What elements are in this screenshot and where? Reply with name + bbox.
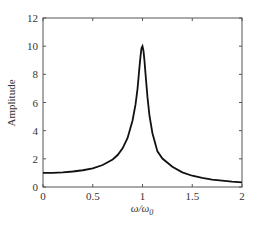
plot-border <box>43 18 242 187</box>
y-tick-label: 12 <box>27 12 38 24</box>
y-tick-label: 6 <box>33 97 39 109</box>
x-tick-label: 1.5 <box>185 190 199 202</box>
y-tick-label: 10 <box>27 40 39 52</box>
y-tick-label: 8 <box>33 68 39 80</box>
x-tick-label: 2 <box>239 190 245 202</box>
y-tick-label: 0 <box>33 181 39 193</box>
y-tick-label: 4 <box>33 125 39 137</box>
x-tick-label: 0.5 <box>86 190 100 202</box>
y-tick-label: 2 <box>33 153 39 165</box>
y-axis-label: Amplitude <box>5 79 17 126</box>
resonance-chart: 024681012 00.511.52 ω/ω0 Amplitude <box>0 0 257 228</box>
x-tick-label: 0 <box>40 190 46 202</box>
y-axis-ticks: 024681012 <box>27 12 242 193</box>
plot-frame <box>43 18 242 187</box>
x-tick-label: 1 <box>140 190 146 202</box>
amplitude-curve <box>43 46 242 182</box>
x-axis-label: ω/ω0 <box>131 202 154 217</box>
